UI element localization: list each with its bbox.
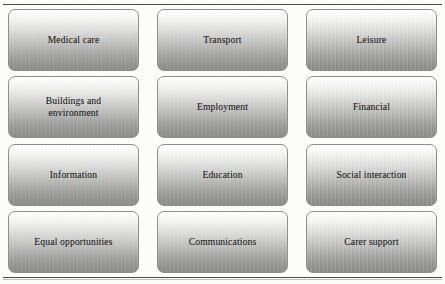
category-box-education[interactable]: Education xyxy=(157,144,288,206)
category-box-medical-care[interactable]: Medical care xyxy=(8,9,139,71)
category-box-employment[interactable]: Employment xyxy=(157,76,288,138)
category-label: Social interaction xyxy=(330,169,412,181)
category-box-carer-support[interactable]: Carer support xyxy=(306,211,437,273)
category-box-financial[interactable]: Financial xyxy=(306,76,437,138)
top-divider-rule xyxy=(3,4,442,5)
category-label: Equal opportunities xyxy=(28,236,118,248)
category-label: Communications xyxy=(183,236,263,248)
category-box-equal-opportunities[interactable]: Equal opportunities xyxy=(8,211,139,273)
bottom-divider-rule xyxy=(3,277,442,278)
category-label: Employment xyxy=(191,101,254,113)
category-label: Carer support xyxy=(338,236,404,248)
page-canvas: Medical care Transport Leisure Buildings… xyxy=(0,0,445,284)
category-label: Education xyxy=(196,169,248,181)
category-box-leisure[interactable]: Leisure xyxy=(306,9,437,71)
category-label: Leisure xyxy=(351,34,393,46)
category-box-information[interactable]: Information xyxy=(8,144,139,206)
category-label: Financial xyxy=(347,101,396,113)
category-label: Information xyxy=(44,169,103,181)
category-box-social-interaction[interactable]: Social interaction xyxy=(306,144,437,206)
category-label: Transport xyxy=(197,34,247,46)
category-label: Medical care xyxy=(42,34,106,46)
category-grid: Medical care Transport Leisure Buildings… xyxy=(8,9,437,271)
category-box-transport[interactable]: Transport xyxy=(157,9,288,71)
category-box-buildings-environment[interactable]: Buildings and environment xyxy=(8,76,139,138)
category-box-communications[interactable]: Communications xyxy=(157,211,288,273)
clipped-heading-fragment xyxy=(62,0,212,2)
category-label: Buildings and environment xyxy=(40,95,108,120)
